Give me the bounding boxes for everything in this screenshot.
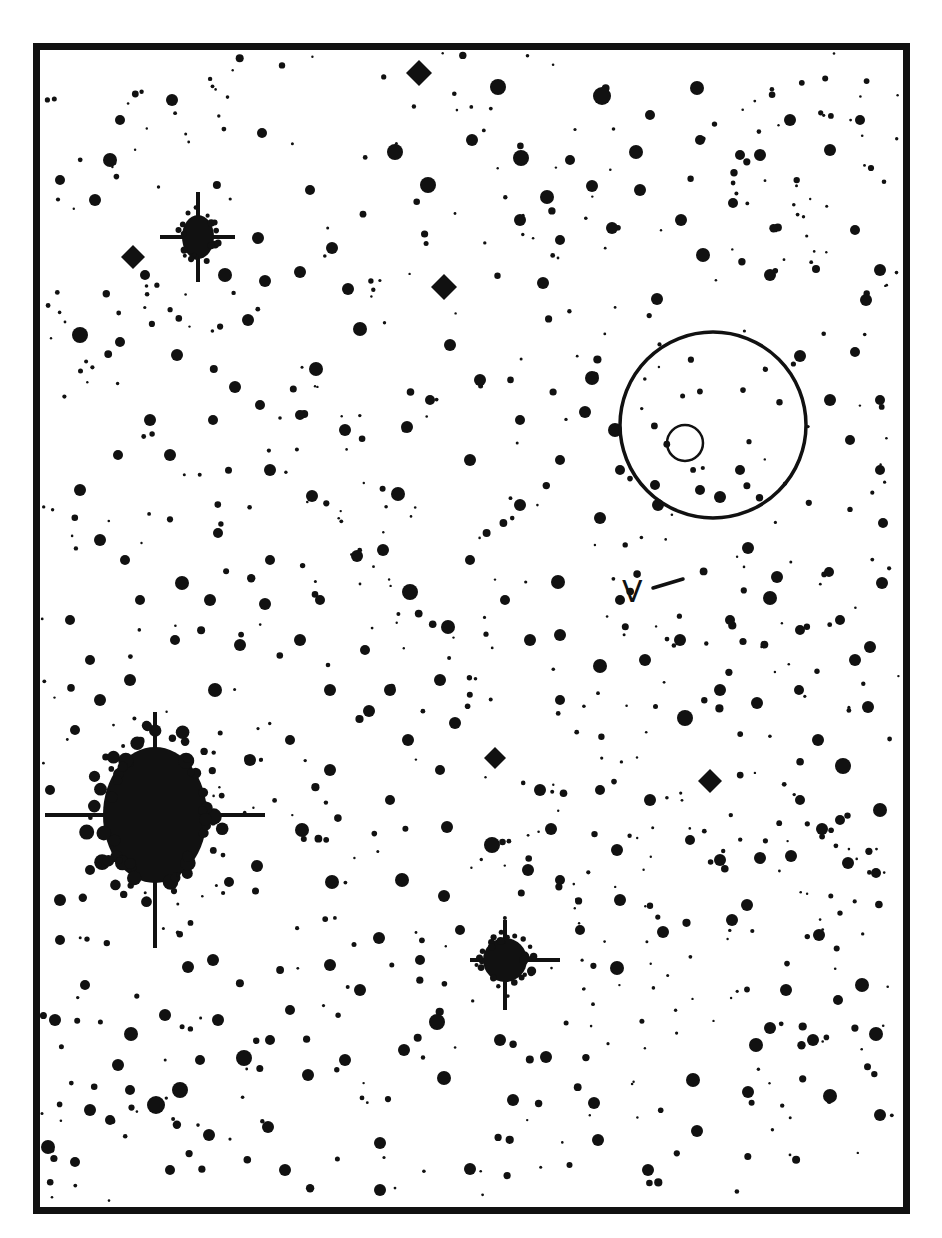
star bbox=[860, 1048, 863, 1051]
star bbox=[883, 481, 886, 484]
star bbox=[560, 789, 568, 797]
star bbox=[690, 81, 704, 95]
star bbox=[176, 903, 179, 906]
star bbox=[524, 580, 527, 583]
star bbox=[345, 448, 348, 451]
star bbox=[712, 121, 717, 126]
star bbox=[79, 894, 87, 902]
star bbox=[525, 855, 532, 862]
star bbox=[708, 859, 714, 865]
star bbox=[296, 967, 299, 970]
star bbox=[618, 984, 620, 986]
star bbox=[799, 1022, 807, 1030]
star bbox=[543, 482, 550, 489]
star bbox=[143, 306, 146, 309]
star bbox=[642, 1164, 654, 1176]
star bbox=[573, 883, 576, 886]
star bbox=[730, 169, 737, 176]
star bbox=[482, 129, 486, 133]
star bbox=[629, 145, 643, 159]
star bbox=[372, 831, 378, 837]
star bbox=[819, 918, 822, 921]
star bbox=[854, 607, 857, 610]
star bbox=[46, 303, 51, 308]
star bbox=[478, 537, 481, 540]
star bbox=[412, 104, 416, 108]
star bbox=[639, 654, 651, 666]
star bbox=[394, 1187, 397, 1190]
star bbox=[165, 711, 167, 713]
star bbox=[806, 893, 808, 895]
star bbox=[326, 226, 329, 229]
star bbox=[644, 905, 646, 907]
star bbox=[70, 725, 80, 735]
star bbox=[314, 385, 316, 387]
star bbox=[556, 711, 561, 716]
star bbox=[870, 491, 874, 495]
star bbox=[741, 899, 753, 911]
star bbox=[742, 1086, 754, 1098]
star bbox=[323, 837, 329, 843]
star bbox=[212, 1014, 224, 1026]
diamond-stars bbox=[121, 60, 722, 793]
star bbox=[594, 512, 606, 524]
star bbox=[823, 1089, 837, 1103]
star bbox=[636, 756, 638, 758]
star bbox=[241, 1095, 245, 1099]
star bbox=[41, 1140, 55, 1154]
star bbox=[257, 128, 267, 138]
star bbox=[789, 561, 792, 564]
star bbox=[370, 295, 372, 297]
star bbox=[74, 1018, 80, 1024]
star bbox=[144, 414, 156, 426]
star bbox=[835, 815, 845, 825]
star bbox=[860, 294, 872, 306]
star bbox=[503, 916, 507, 920]
star bbox=[535, 1100, 542, 1107]
star bbox=[554, 629, 566, 641]
star bbox=[135, 595, 145, 605]
star bbox=[865, 848, 872, 855]
star bbox=[454, 1046, 457, 1049]
star bbox=[425, 395, 435, 405]
star bbox=[415, 931, 418, 934]
star bbox=[459, 52, 466, 59]
star bbox=[824, 1035, 830, 1041]
star bbox=[103, 290, 110, 297]
star bbox=[272, 798, 277, 803]
star bbox=[743, 329, 746, 332]
star bbox=[795, 184, 798, 187]
star bbox=[853, 899, 857, 903]
star bbox=[385, 1096, 391, 1102]
star bbox=[236, 979, 244, 987]
star bbox=[201, 895, 204, 898]
star bbox=[323, 254, 327, 258]
star bbox=[337, 517, 340, 520]
star bbox=[516, 441, 519, 444]
star bbox=[315, 595, 325, 605]
star bbox=[584, 217, 588, 221]
star bbox=[780, 984, 792, 996]
star bbox=[835, 615, 845, 625]
star bbox=[822, 75, 828, 81]
star bbox=[589, 1114, 591, 1116]
star bbox=[507, 1094, 519, 1106]
star bbox=[306, 1184, 314, 1192]
star bbox=[456, 109, 459, 112]
field-stars bbox=[41, 79, 888, 1196]
star bbox=[539, 1166, 542, 1169]
star bbox=[452, 636, 454, 638]
star bbox=[504, 864, 506, 866]
star bbox=[679, 792, 682, 795]
star bbox=[704, 641, 708, 645]
star bbox=[658, 366, 660, 368]
star bbox=[655, 915, 660, 920]
star bbox=[691, 998, 693, 1000]
star bbox=[245, 1068, 248, 1071]
star bbox=[437, 1071, 451, 1085]
star bbox=[402, 734, 414, 746]
star bbox=[295, 823, 309, 837]
star bbox=[782, 782, 787, 787]
star bbox=[455, 925, 465, 935]
star bbox=[799, 891, 802, 894]
